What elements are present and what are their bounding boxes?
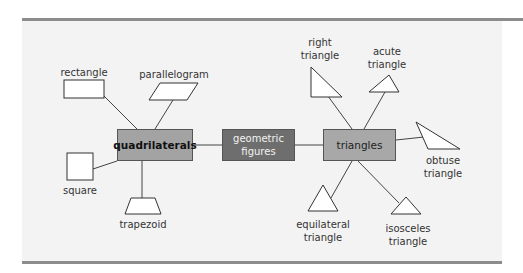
triangles-node: triangles <box>323 129 396 161</box>
link-right-triangle <box>325 92 352 129</box>
right-triangle-shape <box>311 67 342 97</box>
obtuse-triangle-shape <box>416 122 460 149</box>
right-triangle-label-line1: right <box>308 37 332 48</box>
square-label: square <box>58 184 102 197</box>
right-triangle-label: right triangle <box>295 36 345 62</box>
square-shape <box>67 153 93 180</box>
center-label-line1: geometric <box>233 133 284 144</box>
isosceles-triangle-label-line1: isosceles <box>385 223 430 234</box>
obtuse-triangle-label-line1: obtuse <box>426 155 460 166</box>
equilateral-triangle-shape <box>308 185 338 211</box>
link-obtuse-triangle <box>396 137 424 140</box>
rectangle-label: rectangle <box>58 66 110 79</box>
center-label-line2: figures <box>241 146 275 157</box>
link-rectangle <box>104 96 137 129</box>
triangles-label: triangles <box>337 139 383 152</box>
link-square <box>93 161 117 169</box>
right-triangle-label-line2: triangle <box>301 50 340 61</box>
quadrilaterals-label: quadrilaterals <box>113 139 196 152</box>
trapezoid-label: trapezoid <box>117 218 169 231</box>
acute-triangle-label-line2: triangle <box>368 59 407 70</box>
link-parallelogram <box>155 100 173 129</box>
acute-triangle-shape <box>369 75 399 92</box>
acute-triangle-label-line1: acute <box>373 46 401 57</box>
obtuse-triangle-label-line2: triangle <box>424 168 463 179</box>
link-isosceles-triangle <box>358 161 399 203</box>
equilateral-triangle-label-line1: equilateral <box>296 219 350 230</box>
isosceles-triangle-label: isosceles triangle <box>381 222 435 248</box>
rectangle-shape <box>64 80 104 98</box>
parallelogram-shape <box>149 83 198 100</box>
equilateral-triangle-label-line2: triangle <box>304 232 343 243</box>
trapezoid-shape <box>125 198 161 214</box>
link-equilateral-triangle <box>331 161 352 198</box>
obtuse-triangle-label: obtuse triangle <box>418 154 468 180</box>
acute-triangle-label: acute triangle <box>362 45 412 71</box>
quadrilaterals-node: quadrilaterals <box>117 129 193 161</box>
geometric-figures-label: geometric figures <box>233 132 284 158</box>
link-acute-triangle <box>364 92 385 129</box>
geometric-figures-node: geometric figures <box>222 129 295 161</box>
isosceles-triangle-label-line2: triangle <box>389 236 428 247</box>
parallelogram-label: parallelogram <box>138 68 210 81</box>
equilateral-triangle-label: equilateral triangle <box>293 218 353 244</box>
